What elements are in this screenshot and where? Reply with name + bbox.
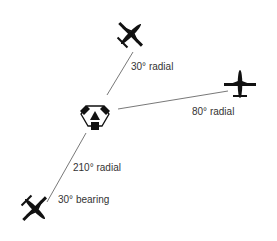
airplane-icon-210-radial [14,188,56,230]
airplane-icon-30-radial [110,13,152,55]
label-210-radial: 210° radial [73,163,121,173]
label-30-bearing: 30° bearing [58,195,109,205]
airplane-icon-80-radial [224,70,256,98]
label-30-radial: 30° radial [131,62,173,72]
vor-diagram [0,0,277,241]
line-30-radial [107,52,133,95]
vor-station-icon [80,105,110,130]
label-80-radial: 80° radial [192,107,234,117]
